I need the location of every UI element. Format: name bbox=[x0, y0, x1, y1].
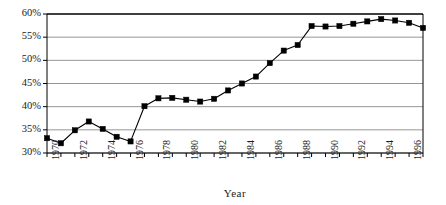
x-axis-title: Year bbox=[47, 188, 423, 199]
x-tick-label: 1976 bbox=[135, 140, 145, 160]
y-axis-ticks bbox=[43, 14, 47, 153]
data-point-1988 bbox=[295, 42, 300, 47]
data-point-1995 bbox=[393, 18, 398, 23]
data-point-1974 bbox=[100, 126, 105, 131]
data-point-1977 bbox=[142, 104, 147, 109]
data-point-1987 bbox=[281, 48, 286, 53]
data-point-1982 bbox=[212, 96, 217, 101]
x-tick-label: 1984 bbox=[246, 140, 256, 160]
data-point-1979 bbox=[170, 95, 175, 100]
x-tick-label: 1980 bbox=[190, 140, 200, 160]
x-tick-label: 1970 bbox=[51, 140, 61, 160]
data-point-1975 bbox=[114, 134, 119, 139]
data-point-1997 bbox=[420, 25, 425, 30]
data-point-1976 bbox=[128, 139, 133, 144]
x-tick-label: 1972 bbox=[79, 140, 89, 160]
data-point-markers bbox=[44, 17, 425, 146]
data-point-1978 bbox=[156, 96, 161, 101]
series-line bbox=[47, 19, 423, 143]
data-point-1990 bbox=[323, 24, 328, 29]
y-tick-label: 45% bbox=[3, 78, 41, 89]
x-tick-label: 1992 bbox=[357, 140, 367, 160]
data-point-1986 bbox=[267, 61, 272, 66]
y-tick-label: 40% bbox=[3, 101, 41, 112]
line-chart: 30%35%40%45%50%55%60% 197019721974197619… bbox=[0, 0, 446, 205]
y-tick-label: 30% bbox=[3, 147, 41, 158]
data-point-1993 bbox=[365, 19, 370, 24]
x-tick-label: 1990 bbox=[330, 140, 340, 160]
x-tick-label: 1982 bbox=[218, 140, 228, 160]
x-tick-label: 1986 bbox=[274, 140, 284, 160]
x-tick-label: 1978 bbox=[162, 140, 172, 160]
data-point-1983 bbox=[225, 88, 230, 93]
y-tick-label: 35% bbox=[3, 124, 41, 135]
y-tick-label: 50% bbox=[3, 54, 41, 65]
data-point-1970 bbox=[44, 136, 49, 141]
y-tick-label: 60% bbox=[3, 8, 41, 19]
x-tick-label: 1988 bbox=[302, 140, 312, 160]
gridlines bbox=[47, 14, 423, 153]
data-point-1989 bbox=[309, 23, 314, 28]
data-point-1980 bbox=[184, 97, 189, 102]
y-tick-label: 55% bbox=[3, 31, 41, 42]
data-point-1992 bbox=[351, 21, 356, 26]
data-point-1972 bbox=[72, 128, 77, 133]
x-tick-label: 1994 bbox=[385, 140, 395, 160]
data-point-1973 bbox=[86, 119, 91, 124]
x-tick-label: 1996 bbox=[413, 140, 423, 160]
data-point-1996 bbox=[406, 20, 411, 25]
data-point-1985 bbox=[253, 74, 258, 79]
chart-canvas bbox=[0, 0, 446, 205]
data-point-1994 bbox=[379, 17, 384, 22]
data-point-1984 bbox=[239, 81, 244, 86]
data-point-1991 bbox=[337, 23, 342, 28]
x-tick-label: 1974 bbox=[107, 140, 117, 160]
data-series-line bbox=[47, 19, 423, 143]
data-point-1981 bbox=[198, 99, 203, 104]
